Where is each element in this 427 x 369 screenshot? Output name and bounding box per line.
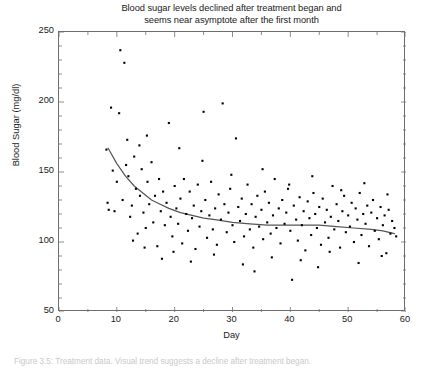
x-axis-title: Day	[58, 330, 405, 340]
x-tick-label-10: 10	[101, 314, 131, 324]
chart-title-line-1: Blood sugar levels declined after treatm…	[121, 3, 341, 13]
y-tick-label-150: 150	[20, 165, 54, 175]
x-tick-label-20: 20	[159, 314, 189, 324]
x-tick-label-30: 30	[217, 314, 247, 324]
x-tick-label-50: 50	[332, 314, 362, 324]
x-tick-label-0: 0	[43, 314, 73, 324]
figure-container: Blood sugar levels declined after treatm…	[0, 0, 427, 369]
chart-title: Blood sugar levels declined after treatm…	[58, 3, 405, 26]
plot-area	[58, 31, 405, 311]
x-tick-label-60: 60	[390, 314, 420, 324]
y-tick-label-200: 200	[20, 95, 54, 105]
y-tick-label-250: 250	[20, 25, 54, 35]
chart-title-line-2: seems near asymptote after the first mon…	[58, 15, 405, 27]
x-axis-tick-labels: 0102030405060	[58, 314, 405, 328]
plot-svg	[59, 32, 406, 312]
figure-caption: Figure 3.5: Treatment data. Visual trend…	[14, 357, 414, 367]
y-axis-title: Blood Sugar (mg/dl)	[11, 65, 21, 185]
y-axis-tick-labels: 50100150200250	[16, 31, 54, 311]
y-tick-label-100: 100	[20, 235, 54, 245]
x-tick-label-40: 40	[274, 314, 304, 324]
